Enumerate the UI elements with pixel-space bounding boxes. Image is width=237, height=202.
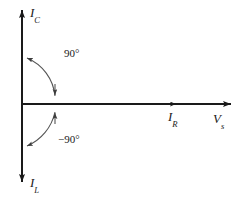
arc-negative-90	[27, 112, 55, 146]
axis-label-vs-subscript: s	[221, 121, 224, 131]
phasor-diagram: IC IL IR Vs 90° −90°	[0, 0, 237, 202]
axis-label-ic: IC	[30, 6, 40, 22]
axis-label-il: IL	[30, 176, 39, 192]
axis-label-vs-base: V	[213, 111, 221, 126]
axis-label-il-subscript: L	[34, 185, 39, 195]
axis-label-vs: Vs	[213, 112, 224, 128]
diagram-canvas	[0, 0, 237, 202]
axis-label-ir: IR	[168, 110, 178, 126]
axis-label-ir-subscript: R	[172, 119, 177, 129]
arc-positive-90	[27, 58, 55, 96]
axis-label-ic-subscript: C	[34, 15, 40, 25]
angle-label-negative: −90°	[58, 134, 80, 145]
angle-label-positive: 90°	[64, 48, 79, 59]
